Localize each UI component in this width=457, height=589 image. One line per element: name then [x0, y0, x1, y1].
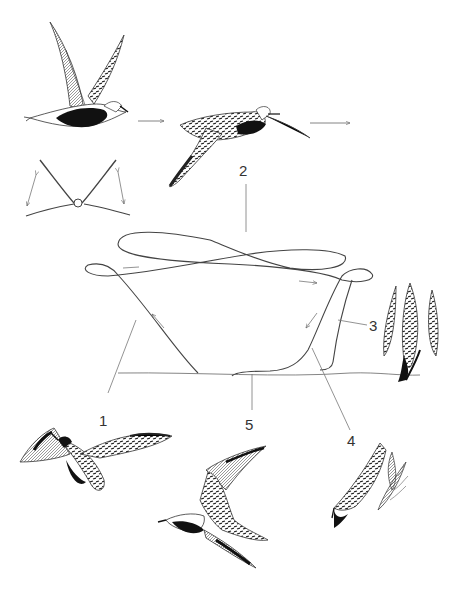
flight-display-diagram [0, 0, 457, 589]
stage-label-3: 3 [369, 318, 377, 333]
bird-climb [20, 428, 172, 490]
direction-arrow-icon [306, 313, 317, 328]
stage-label-2: 2 [239, 163, 247, 178]
figure-caption [20, 580, 440, 589]
direction-arrow-icon [152, 314, 164, 328]
stage-label-1: 1 [99, 413, 107, 428]
direction-arrow-icon [123, 267, 139, 268]
bird-dive-vertical [384, 283, 438, 382]
direction-arrow-icon [299, 281, 317, 283]
wingbeat-arrow-icon [118, 172, 124, 204]
stage-label-4: 4 [347, 433, 355, 448]
bird-takeoff [24, 22, 128, 127]
leader-lines [108, 184, 367, 430]
wingbeat-schematic [26, 160, 130, 216]
bird-flight-side [158, 446, 268, 568]
stage-label-5: 5 [245, 417, 253, 432]
bird-dive-steep [332, 443, 408, 528]
wingbeat-arrow-icon [27, 175, 36, 206]
flight-path [85, 232, 420, 376]
